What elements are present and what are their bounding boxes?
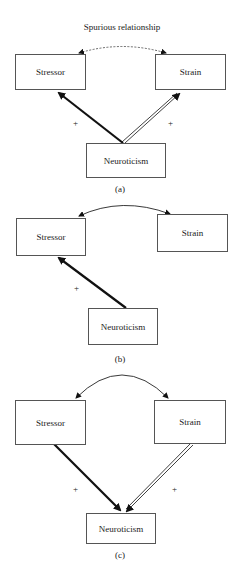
neuroticism-node-a: Neuroticism <box>86 143 166 178</box>
arrow-neuroticism-to-stressor-a <box>59 93 123 143</box>
caption-c: (c) <box>100 550 140 560</box>
caption-b: (b) <box>100 354 140 364</box>
strain-node-a: Strain <box>155 54 226 90</box>
stressor-node-b: Stressor <box>16 218 86 256</box>
stressor-node-c: Stressor <box>15 400 86 445</box>
arrow-neuroticism-to-stressor-b <box>59 258 126 308</box>
plus-sign-b: + <box>74 283 79 293</box>
plus-sign-a-left: + <box>73 118 78 128</box>
spurious-dashed-arc <box>79 47 166 54</box>
plus-sign-a-right: + <box>168 118 173 128</box>
strain-node-c: Strain <box>154 400 226 444</box>
caption-a: (a) <box>100 184 140 194</box>
plus-sign-c-left: + <box>73 484 78 494</box>
stressor-node-a: Stressor <box>15 54 86 90</box>
neuroticism-node-c: Neuroticism <box>86 513 156 544</box>
panel-a-title: Spurious relationship <box>60 22 184 32</box>
bidirectional-arc-c <box>76 375 168 398</box>
neuroticism-node-b: Neuroticism <box>88 308 158 345</box>
arrow-strain-to-neuroticism-c-1 <box>126 443 191 509</box>
arrow-strain-to-neuroticism-c-2 <box>127 445 193 511</box>
arrow-stressor-to-neuroticism-c <box>54 444 120 510</box>
plus-sign-c-right: + <box>172 484 177 494</box>
strain-node-b: Strain <box>157 214 228 252</box>
